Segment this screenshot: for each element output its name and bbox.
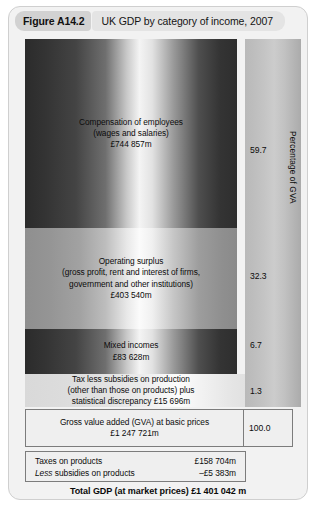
taxes-on-products-amount: £158 704m bbox=[195, 456, 236, 468]
bar-segment-compensation-of-employees: Compensation of employees (wages and sal… bbox=[25, 39, 237, 228]
percentage-value-mixed-incomes: 6.7 bbox=[250, 340, 262, 350]
gva-percentage: 100.0 bbox=[244, 410, 292, 446]
total-gdp-line: Total GDP (at market prices) £1 401 042 … bbox=[9, 486, 307, 496]
bar-segment-mixed-incomes: Mixed incomes £83 628m bbox=[25, 329, 237, 374]
taxes-on-products-row: Taxes on products £158 704m bbox=[35, 456, 236, 468]
percentage-value-compensation: 59.7 bbox=[250, 145, 267, 155]
bar-segment-label: Compensation of employees (wages and sal… bbox=[71, 117, 191, 151]
figure-caption: UK GDP by category of income, 2007 bbox=[92, 11, 285, 31]
axis-label-percentage-of-gva: Percentage of GVA bbox=[288, 131, 298, 204]
figure-card: Figure A14.2 UK GDP by category of incom… bbox=[8, 6, 308, 500]
bar-segment-label: Tax less subsidies on production (other … bbox=[60, 374, 259, 408]
bar-segment-operating-surplus: Operating surplus (gross profit, rent an… bbox=[25, 228, 237, 329]
bar-segment-label: Operating surplus (gross profit, rent an… bbox=[54, 256, 208, 301]
percentage-axis-column: 59.7 32.3 6.7 1.3 Percentage of GVA bbox=[245, 39, 301, 407]
taxes-on-products-label: Taxes on products bbox=[35, 456, 102, 468]
subsidies-on-products-row: Less subsidies on products –£5 383m bbox=[35, 468, 236, 480]
stacked-bar-column: Compensation of employees (wages and sal… bbox=[25, 39, 237, 374]
chart-plot-area: Compensation of employees (wages and sal… bbox=[25, 39, 293, 407]
subsidies-on-products-label: Less subsidies on products bbox=[35, 468, 135, 480]
subsidies-label-rest: subsidies on products bbox=[53, 468, 135, 478]
bar-segment-label: Mixed incomes £83 628m bbox=[96, 340, 167, 362]
taxes-and-subsidies-box: Taxes on products £158 704m Less subsidi… bbox=[25, 451, 246, 482]
gva-label: Gross value added (GVA) at basic prices … bbox=[26, 410, 244, 446]
gva-amount: £1 247 721m bbox=[110, 428, 158, 439]
percentage-value-tax-less-subsidies: 1.3 bbox=[250, 386, 262, 396]
figure-title-row: Figure A14.2 UK GDP by category of incom… bbox=[15, 11, 285, 31]
subsidies-label-italic-prefix: Less bbox=[35, 468, 53, 478]
gross-value-added-box: Gross value added (GVA) at basic prices … bbox=[25, 409, 293, 447]
figure-number-tag: Figure A14.2 bbox=[15, 11, 91, 31]
percentage-value-operating-surplus: 32.3 bbox=[250, 271, 267, 281]
gva-label-line1: Gross value added (GVA) at basic prices bbox=[60, 417, 209, 428]
subsidies-on-products-amount: –£5 383m bbox=[199, 468, 236, 480]
